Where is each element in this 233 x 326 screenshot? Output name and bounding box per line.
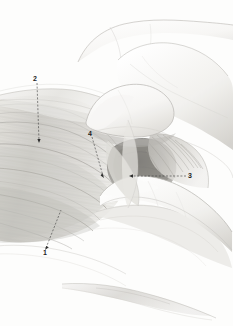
figure-label-4: 4 [88,130,92,137]
anatomical-figure: 1 2 3 4 [0,0,233,326]
figure-label-2: 2 [33,75,37,82]
illustration-canvas [0,0,233,326]
figure-label-3: 3 [188,172,192,179]
figure-label-1: 1 [43,249,47,256]
paper-veil [0,0,233,326]
